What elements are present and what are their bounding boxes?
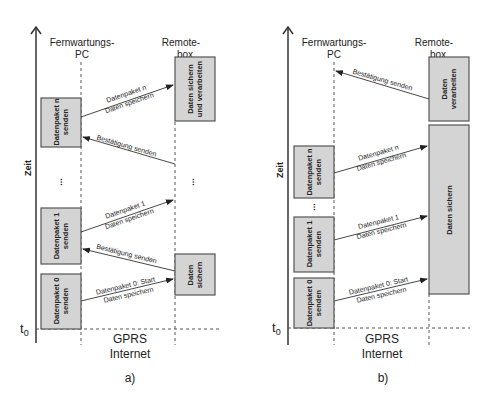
panel-a: Zeit Fernwartungs- PC Remote- box t0 Dat… [20,27,222,385]
network-internet-a: Internet [110,347,151,361]
network-gprs-a: GPRS [113,332,147,346]
t0-label-a: t0 [20,321,29,338]
msg-ack-1-a: Bestätigung senden [96,134,158,159]
pc-box-1-a-label-2: senden [61,222,70,249]
remote-box-process-b-label-2: verarbeiten [449,68,458,109]
pc-box-1-b-label: Datenpaket 1 [305,221,314,268]
sequence-diagram: Zeit Fernwartungs- PC Remote- box t0 Dat… [0,0,493,399]
pc-box-0-b-label-2: senden [314,289,323,316]
panel-b: Zeit Fernwartungs- PC Remote- box t0 Dat… [272,27,470,385]
arrow-ack-1-a [83,137,175,164]
network-internet-b: Internet [362,347,403,361]
pc-box-1-b-label-2: senden [314,230,323,257]
remote-box-process-a-label-2: und verarbeiten [195,60,204,117]
pc-box-n-a-label-2: senden [61,108,70,135]
pc-header-b-2: PC [327,49,341,60]
ellipsis-pc-b: ... [307,203,317,211]
pc-header-b: Fernwartungs- [302,37,366,48]
remote-header-b: Remote- [415,37,453,48]
t0-label-b: t0 [272,320,281,337]
ellipsis-pc-a: ... [54,178,64,186]
time-axis-label-a: Zeit [23,160,33,176]
pc-header-a-2: PC [75,49,89,60]
remote-box-save-a-label: Daten [186,264,195,285]
pc-box-n-b-label: Datenpaket n [305,148,314,196]
pc-header-a: Fernwartungs- [50,37,114,48]
remote-header-a: Remote- [162,37,200,48]
pc-box-n-b-label-2: senden [314,158,323,185]
remote-box-process-a-label: Daten sichern [186,64,195,114]
ellipsis-remote-a: ... [186,178,196,186]
caption-a: a) [125,371,136,385]
remote-box-save-b-label: Daten sichern [445,185,454,235]
pc-box-0-a-label-2: senden [61,287,70,314]
network-gprs-b: GPRS [365,332,399,346]
pc-box-0-a-label: Datenpaket 0 [52,278,61,325]
pc-box-1-a-label: Datenpaket 1 [52,213,61,260]
pc-box-n-a-label: Datenpaket n [52,98,61,146]
caption-b: b) [378,371,389,385]
remote-box-save-a-label-2: sichern [195,261,204,288]
remote-box-process-b-label: Daten [440,78,449,99]
msg-ack-b: Bestätigung senden [352,68,414,93]
time-axis-label-b: Zeit [275,162,285,178]
pc-box-0-b-label: Datenpaket 0 [305,280,314,327]
